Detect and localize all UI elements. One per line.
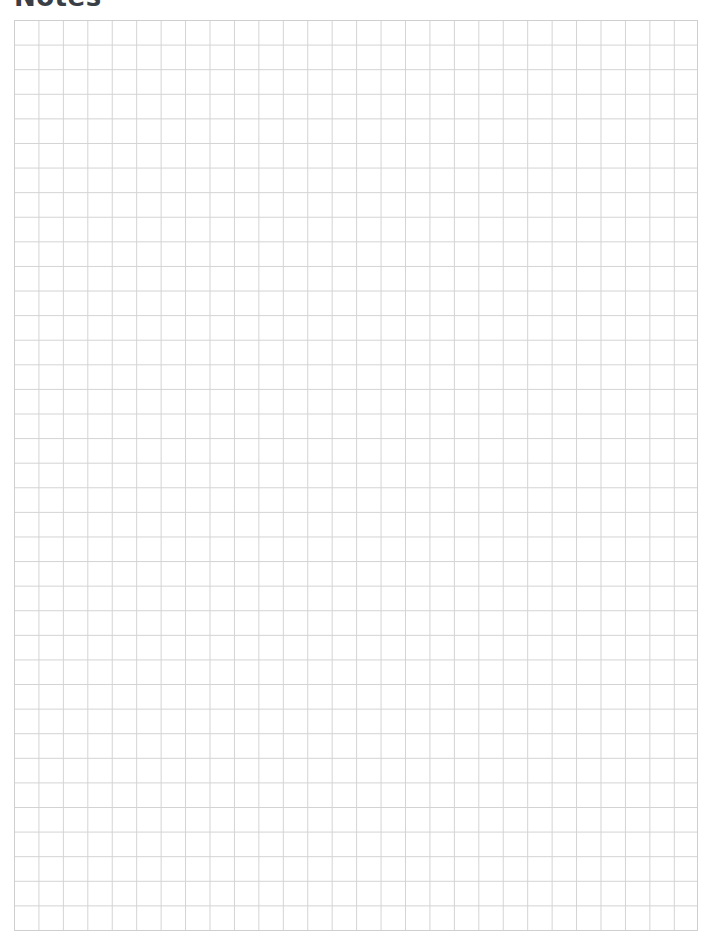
graph-paper-grid [14, 20, 698, 931]
page-title: Notes [14, 0, 102, 10]
